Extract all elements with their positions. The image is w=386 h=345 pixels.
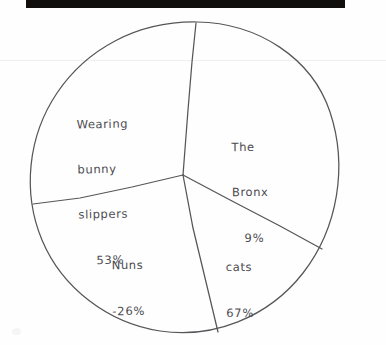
slice-label-line-1: cats: [226, 260, 254, 275]
pie-circle-outline: [30, 22, 338, 333]
slice-label-line-1: Wearing: [76, 116, 128, 132]
scanned-page: Wearing bunny slippers 53% The Bronx 9% …: [0, 0, 386, 345]
slice-label-line-1: Nuns: [112, 258, 145, 273]
slice-label-line-3: slippers: [78, 206, 130, 222]
slice-value-nuns: -26%: [112, 304, 145, 319]
divider-wearing-bronx: [183, 23, 196, 175]
slice-label-line-2: Bronx: [232, 185, 269, 200]
slice-label-nuns: Nuns -26%: [111, 228, 146, 345]
divider-nuns-cats: [183, 175, 218, 332]
slice-value-cats: 67%: [226, 306, 254, 321]
slice-label-cats: cats 67%: [225, 230, 254, 345]
slice-label-line-1: The: [231, 140, 268, 155]
slice-label-line-2: bunny: [77, 161, 129, 177]
pie-chart-drawing: [0, 0, 386, 345]
